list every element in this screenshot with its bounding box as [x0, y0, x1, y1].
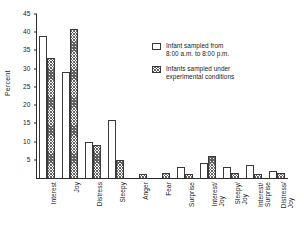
legend-swatch-hatched [152, 66, 161, 73]
bar-hatched [116, 160, 124, 178]
bar-group [128, 14, 151, 178]
bar-open [62, 72, 70, 178]
bar-hatched [162, 173, 170, 178]
x-axis-line [36, 178, 288, 179]
x-axis-tick-label: Surprise [188, 182, 195, 207]
legend-entry: Infant sampled from 8:00 a.m. to 8:00 p.… [152, 42, 292, 57]
bar-hatched [139, 174, 147, 178]
y-axis-tick-label: 15 [23, 120, 34, 127]
y-axis-tick-mark [34, 159, 37, 160]
bar-hatched [70, 29, 78, 178]
y-axis-tick-mark [34, 141, 37, 142]
bar-group [59, 14, 82, 178]
x-axis-tick-label: Distress/ Joy [280, 182, 295, 208]
y-axis-tick-mark [34, 32, 37, 33]
y-axis-tick-mark [34, 68, 37, 69]
y-axis-tick-label: 5 [27, 157, 34, 164]
y-axis-tick-mark [34, 14, 37, 15]
bar-open [269, 171, 277, 178]
y-axis-tick-label: 20 [23, 102, 34, 109]
bar-open [39, 36, 47, 178]
x-axis-tick-label: Interest/ Surprise [257, 182, 272, 207]
x-axis-tick-label: Interest/ Joy [211, 182, 226, 206]
bar-hatched [277, 173, 285, 178]
x-axis-tick-label: Interest [50, 182, 57, 204]
bar-group [265, 14, 288, 178]
x-axis-tick-label: Sleepy [119, 182, 126, 202]
x-axis-tick-label: Distress [96, 182, 103, 206]
bar-open [246, 165, 254, 178]
legend-swatch-open [152, 43, 161, 50]
y-axis-tick-mark [34, 50, 37, 51]
legend-entry: Infants sampled under experimental condi… [152, 65, 292, 80]
bar-group [196, 14, 219, 178]
bar-group [242, 14, 265, 178]
y-axis-tick-mark [34, 105, 37, 106]
plot-area [36, 14, 288, 178]
bar-open [223, 167, 231, 178]
y-axis-tick-mark [34, 86, 37, 87]
chart-legend: Infant sampled from 8:00 a.m. to 8:00 p.… [152, 42, 292, 88]
bar-hatched [47, 58, 55, 178]
bar-group [36, 14, 59, 178]
y-axis-tick-label: 45 [23, 11, 34, 18]
bar-hatched [208, 156, 216, 178]
bar-open [85, 142, 93, 178]
bar-group [173, 14, 196, 178]
bar-open [177, 167, 185, 178]
bar-hatched [254, 174, 262, 178]
y-axis-tick-label: 30 [23, 65, 34, 72]
y-axis-tick-mark [34, 123, 37, 124]
x-axis-tick-label: Sleepy/ Joy [234, 182, 249, 204]
bar-group [151, 14, 174, 178]
bar-open [108, 120, 116, 178]
bar-group [219, 14, 242, 178]
y-axis-tick-label: 10 [23, 138, 34, 145]
bar-group [82, 14, 105, 178]
bar-group [105, 14, 128, 178]
legend-label: Infant sampled from 8:00 a.m. to 8:00 p.… [166, 42, 229, 57]
y-axis-title: Percent [4, 70, 11, 96]
y-axis-tick-label: 35 [23, 47, 34, 54]
bar-hatched [93, 145, 101, 178]
bar-chart-figure: Percent Infant sampled from 8:00 a.m. to… [0, 0, 304, 236]
x-axis-tick-label: Joy [73, 182, 80, 192]
y-axis-tick-label: 25 [23, 84, 34, 91]
legend-label: Infants sampled under experimental condi… [166, 65, 234, 80]
bar-open [200, 163, 208, 178]
bar-hatched [231, 173, 239, 178]
bar-hatched [185, 174, 193, 178]
x-axis-tick-label: Fear [165, 182, 172, 196]
x-axis-tick-label: Anger [142, 182, 149, 200]
y-axis-tick-label: 40 [23, 29, 34, 36]
